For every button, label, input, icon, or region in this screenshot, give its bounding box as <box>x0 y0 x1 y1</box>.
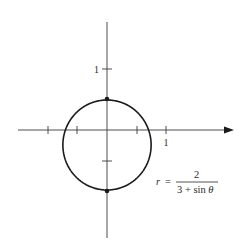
x-axis-arrow-icon <box>224 127 234 134</box>
point-bottom <box>105 189 110 194</box>
point-top <box>105 97 110 102</box>
y-tick-label-1: 1 <box>94 64 99 75</box>
axes <box>18 22 228 238</box>
equation-equals: = <box>165 176 171 187</box>
polar-plot: 1 1 r = 2 3 + sin θ <box>0 0 244 247</box>
equation-label: r = 2 3 + sin θ <box>156 169 218 195</box>
x-tick-label-1: 1 <box>164 137 169 148</box>
denominator-prefix: 3 + sin <box>177 184 208 195</box>
equation-denominator: 3 + sin θ <box>177 184 213 195</box>
equation-numerator: 2 <box>194 169 199 180</box>
equation-lhs: r <box>156 176 161 187</box>
denominator-theta: θ <box>208 184 213 195</box>
